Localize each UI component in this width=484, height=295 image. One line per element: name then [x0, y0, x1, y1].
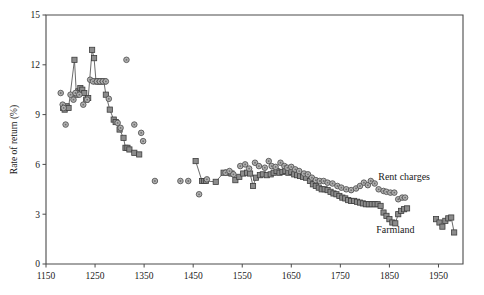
- y-tick-label: 12: [31, 60, 41, 70]
- data-point-circle-core: [393, 192, 395, 194]
- data-point-square: [193, 158, 198, 163]
- data-point-circle-core: [63, 107, 65, 109]
- data-point-circle-core: [244, 164, 246, 166]
- data-point-circle-core: [82, 104, 84, 106]
- series-farmland: [61, 47, 457, 235]
- data-point-square: [127, 147, 132, 152]
- data-point-circle-core: [248, 168, 250, 170]
- data-point-circle-core: [225, 172, 227, 174]
- data-point-square: [440, 224, 445, 229]
- data-point-circle-core: [404, 197, 406, 199]
- data-point-circle-core: [355, 188, 357, 190]
- data-point-square: [247, 171, 252, 176]
- data-point-circle-core: [198, 193, 200, 195]
- data-point-circle-core: [345, 188, 347, 190]
- data-point-circle-core: [70, 94, 72, 96]
- data-point-square: [90, 47, 95, 52]
- data-point-circle-core: [378, 188, 380, 190]
- rate-of-return-chart: 0369121511501250135014501550165017501850…: [0, 0, 484, 295]
- chart-annotations: Rent chargesFarmland: [376, 171, 430, 235]
- data-point-circle-core: [359, 185, 361, 187]
- series-annotation: Rent charges: [378, 171, 430, 182]
- series-annotation: Farmland: [376, 224, 414, 235]
- x-tick-label: 1250: [86, 271, 105, 281]
- data-point-circle-core: [315, 179, 317, 181]
- data-point-circle-core: [86, 99, 88, 101]
- data-point-circle-core: [78, 94, 80, 96]
- data-point-circle-core: [140, 132, 142, 134]
- y-tick-label: 3: [35, 210, 40, 220]
- data-point-circle-core: [337, 185, 339, 187]
- data-point-circle-core: [350, 189, 352, 191]
- data-point-circle-core: [271, 165, 273, 167]
- data-point-circle-core: [298, 170, 300, 172]
- data-point-circle-core: [386, 191, 388, 193]
- data-point-circle-core: [327, 182, 329, 184]
- x-tick-label: 1850: [380, 271, 399, 281]
- data-point-circle-core: [323, 180, 325, 182]
- data-point-square: [404, 206, 409, 211]
- data-point-square: [107, 107, 112, 112]
- data-point-circle-core: [275, 166, 277, 168]
- data-point-circle-core: [60, 92, 62, 94]
- y-axis-title: Rate of return (%): [9, 105, 20, 174]
- data-point-square: [250, 183, 255, 188]
- y-tick-label: 15: [31, 10, 41, 20]
- data-point-circle-core: [294, 168, 296, 170]
- data-point-circle-core: [397, 198, 399, 200]
- data-point-circle-core: [154, 180, 156, 182]
- chart-figure: 0369121511501250135014501550165017501850…: [0, 0, 484, 295]
- data-point-circle-core: [374, 183, 376, 185]
- data-point-square: [378, 203, 383, 208]
- x-tick-label: 1650: [282, 271, 301, 281]
- data-point-square: [121, 135, 126, 140]
- x-tick-label: 1750: [331, 271, 350, 281]
- x-tick-label: 1950: [429, 271, 448, 281]
- data-point-circle-core: [133, 124, 135, 126]
- data-point-circle-core: [239, 165, 241, 167]
- data-point-circle-core: [65, 124, 67, 126]
- data-point-circle-core: [311, 177, 313, 179]
- y-tick-label: 0: [35, 259, 40, 269]
- data-point-circle-core: [332, 183, 334, 185]
- data-point-circle-core: [73, 99, 75, 101]
- y-tick-label: 6: [35, 160, 40, 170]
- data-point-circle-core: [264, 167, 266, 169]
- data-point-circle-core: [233, 173, 235, 175]
- data-point-circle-core: [319, 180, 321, 182]
- data-point-circle-core: [254, 162, 256, 164]
- y-tick-label: 9: [35, 110, 40, 120]
- data-point-circle-core: [290, 166, 292, 168]
- data-point-circle-core: [126, 59, 128, 61]
- data-point-circle-core: [206, 178, 208, 180]
- x-tick-label: 1450: [184, 271, 203, 281]
- data-point-circle-core: [142, 140, 144, 142]
- data-point-circle-core: [92, 81, 94, 83]
- data-point-circle-core: [258, 165, 260, 167]
- data-point-circle-core: [370, 180, 372, 182]
- data-point-circle-core: [268, 160, 270, 162]
- data-point-circle-core: [75, 92, 77, 94]
- data-point-circle-core: [180, 180, 182, 182]
- data-point-circle-core: [367, 184, 369, 186]
- chart-axes: 0369121511501250135014501550165017501850…: [9, 10, 463, 281]
- data-point-circle-core: [363, 182, 365, 184]
- data-point-circle-core: [303, 173, 305, 175]
- data-point-circle-core: [307, 173, 309, 175]
- chart-data-layer: [58, 47, 457, 235]
- data-point-circle-core: [286, 167, 288, 169]
- data-point-square: [213, 179, 218, 184]
- data-point-circle-core: [108, 98, 110, 100]
- data-point-circle-core: [389, 192, 391, 194]
- data-point-square: [91, 56, 96, 61]
- data-point-circle-core: [187, 180, 189, 182]
- data-point-circle-core: [120, 127, 122, 129]
- data-point-square: [452, 230, 457, 235]
- x-tick-label: 1150: [37, 271, 56, 281]
- x-tick-label: 1350: [135, 271, 154, 281]
- data-point-circle-core: [229, 170, 231, 172]
- data-point-circle-core: [280, 162, 282, 164]
- data-point-square: [132, 150, 137, 155]
- data-point-circle-core: [105, 81, 107, 83]
- data-point-square: [449, 215, 454, 220]
